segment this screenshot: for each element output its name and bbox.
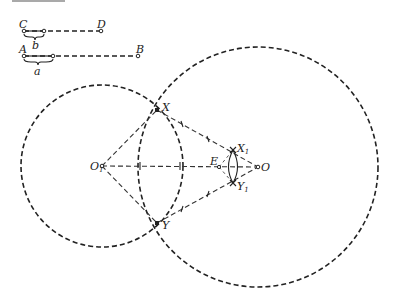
label-b-point: B <box>135 43 144 56</box>
label-x: X <box>161 101 171 114</box>
label-c: C <box>19 18 28 31</box>
label-y1: Y1 <box>237 180 249 194</box>
label-y: Y <box>162 219 171 232</box>
point-y <box>155 221 159 225</box>
segment-cd: C D b <box>19 18 106 52</box>
label-o: O <box>261 161 270 174</box>
point-x <box>155 108 159 112</box>
label-b: b <box>32 39 39 52</box>
label-d: D <box>96 18 106 31</box>
label-a-part: a <box>34 65 41 78</box>
construction-lines <box>102 110 258 223</box>
label-o1: O1 <box>90 160 104 174</box>
point-o <box>256 165 260 169</box>
label-e: E <box>209 155 218 168</box>
diagram-canvas: C D b A B a <box>0 0 394 307</box>
label-a: A <box>18 43 27 56</box>
label-x1: X1 <box>236 142 249 156</box>
point-y1 <box>230 180 236 186</box>
point-x1 <box>230 147 236 153</box>
